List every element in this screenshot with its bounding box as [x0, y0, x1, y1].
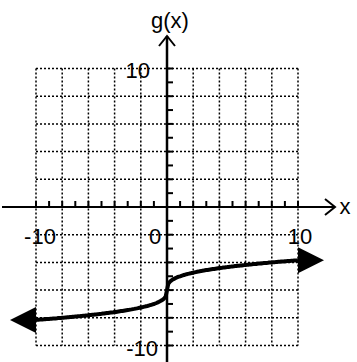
x-tick-0: 0	[149, 224, 161, 249]
arrow-right-icon	[298, 247, 324, 273]
y-tick-neg10: -10	[126, 336, 158, 361]
y-axis-label: g(x)	[151, 8, 189, 33]
arrow-left-icon	[10, 307, 36, 333]
graph: g(x) x 10 -10 -10 0 10	[0, 0, 357, 362]
x-tick-10: 10	[288, 224, 312, 249]
x-axis-label: x	[340, 194, 351, 219]
y-tick-10: 10	[126, 58, 150, 83]
x-tick-neg10: -10	[24, 224, 56, 249]
axes	[2, 36, 335, 362]
